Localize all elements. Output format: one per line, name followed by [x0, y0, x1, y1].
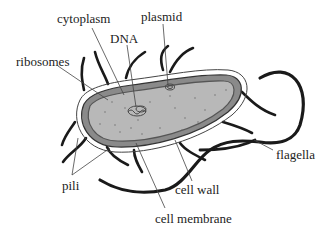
- label-cell-wall: cell wall: [175, 183, 219, 196]
- diagram-graphic: [0, 0, 327, 240]
- label-ribosomes: ribosomes: [16, 55, 69, 68]
- label-flagella: flagella: [276, 148, 315, 161]
- label-plasmid: plasmid: [141, 10, 182, 23]
- bacterial-cell-diagram: cytoplasm plasmid DNA ribosomes flagella…: [0, 0, 327, 240]
- label-pili: pili: [62, 179, 79, 192]
- label-cell-membrane: cell membrane: [155, 212, 232, 225]
- label-dna: DNA: [110, 32, 138, 45]
- label-cytoplasm: cytoplasm: [57, 12, 110, 25]
